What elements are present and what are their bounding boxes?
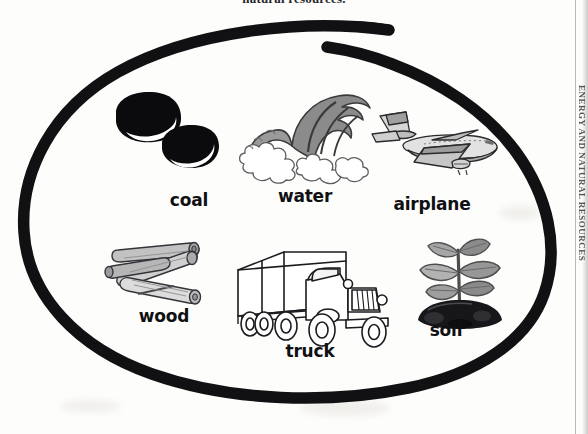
item-truck: truck [224, 228, 394, 368]
ocean-wave-icon [236, 82, 372, 186]
seedling-in-soil-icon [404, 232, 516, 332]
item-airplane: airplane [366, 100, 502, 216]
item-soil: soil [404, 232, 520, 352]
item-label-airplane: airplane [364, 194, 500, 214]
page-edge-shadow [582, 0, 588, 434]
jet-airliner-icon [366, 100, 502, 190]
coal-lumps-icon [104, 86, 224, 186]
wood-logs-icon [104, 228, 220, 308]
item-water: water [236, 82, 372, 216]
item-label-soil: soil [410, 320, 482, 340]
item-wood: wood [104, 228, 224, 348]
item-coal: coal [104, 86, 224, 216]
item-label-water: water [264, 186, 346, 206]
item-label-wood: wood [126, 306, 202, 326]
worksheet-page: natural resources. coal [0, 0, 588, 434]
item-label-truck: truck [270, 341, 350, 361]
box-truck-icon [224, 228, 394, 348]
item-label-coal: coal [154, 190, 224, 210]
grouping-oval [0, 0, 588, 434]
